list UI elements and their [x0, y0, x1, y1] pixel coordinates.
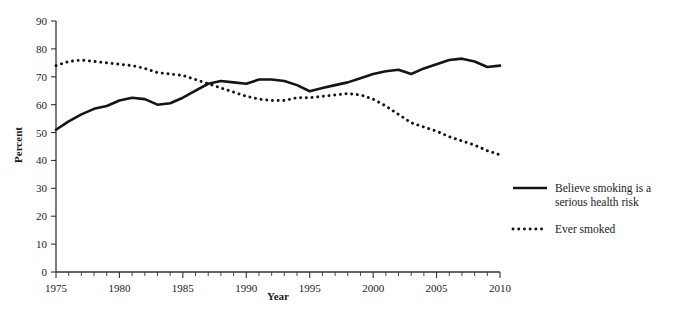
x-axis-label: Year: [267, 290, 289, 302]
x-tick-label: 2010: [489, 282, 512, 294]
x-tick-label: 2000: [362, 282, 385, 294]
x-tick-label: 2005: [426, 282, 449, 294]
x-tick-label: 1990: [235, 282, 258, 294]
legend-label-2: Ever smoked: [555, 223, 616, 235]
chart-figure: 0102030405060708090197519801985199019952…: [0, 0, 682, 317]
y-axis-label: Percent: [12, 127, 24, 163]
y-tick-label: 70: [36, 71, 48, 83]
y-tick-label: 0: [42, 266, 48, 278]
chart-axes: [56, 21, 500, 272]
x-tick-label: 1995: [299, 282, 322, 294]
x-tick-label: 1985: [172, 282, 195, 294]
y-tick-label: 90: [36, 15, 48, 27]
x-tick-label: 1975: [45, 282, 68, 294]
line-chart: 0102030405060708090197519801985199019952…: [0, 0, 682, 317]
y-tick-label: 30: [36, 182, 48, 194]
y-tick-label: 50: [36, 127, 48, 139]
chart-ticks: [51, 21, 500, 278]
chart-series: [56, 59, 500, 155]
y-tick-label: 40: [36, 154, 48, 166]
y-tick-label: 20: [36, 210, 48, 222]
chart-tick-labels: 0102030405060708090197519801985199019952…: [36, 15, 512, 294]
series-line-2: [56, 60, 500, 155]
y-tick-label: 60: [36, 99, 48, 111]
legend-label-1-line2: serious health risk: [555, 196, 639, 208]
x-tick-label: 1980: [108, 282, 131, 294]
y-tick-label: 10: [36, 238, 48, 250]
chart-legend: Believe smoking is aserious health riskE…: [513, 182, 651, 235]
series-line-1: [56, 59, 500, 130]
legend-label-1: Believe smoking is a: [555, 182, 651, 195]
y-tick-label: 80: [36, 43, 48, 55]
